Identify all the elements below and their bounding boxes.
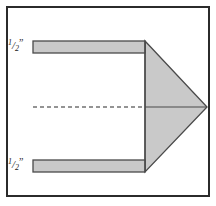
bottom-bar (33, 160, 145, 172)
figure-container: 1/2” 1/2” (0, 0, 216, 206)
fraction-numerator-bottom: 1 (8, 157, 12, 166)
fraction-bottom: 1/2” (8, 157, 24, 173)
technical-drawing (0, 0, 216, 206)
fraction-top: 1/2” (8, 38, 24, 54)
fraction-numerator-top: 1 (8, 38, 12, 47)
inch-mark-top: ” (19, 37, 23, 48)
inch-mark-bottom: ” (19, 156, 23, 167)
dimension-label-bottom: 1/2” (8, 157, 24, 173)
top-bar (33, 41, 145, 53)
dimension-label-top: 1/2” (8, 38, 24, 54)
